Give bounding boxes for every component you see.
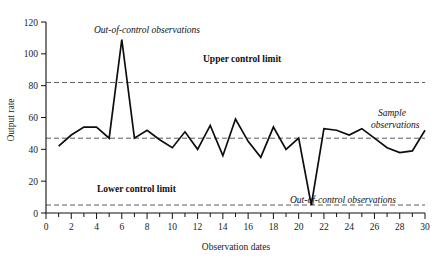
x-tick-label: 22 <box>319 222 329 232</box>
x-tick-label: 6 <box>119 222 124 232</box>
x-tick-label: 4 <box>94 222 99 232</box>
x-tick-label: 16 <box>243 222 253 232</box>
y-tick-label: 120 <box>24 18 39 28</box>
x-tick-label: 8 <box>145 222 150 232</box>
y-tick-label: 40 <box>29 145 39 155</box>
upper-control-limit-label: Upper control limit <box>203 54 282 64</box>
y-tick-label: 60 <box>29 113 39 123</box>
chart-background <box>0 0 441 260</box>
control-chart-svg: 020406080100120 024681012141618202224262… <box>0 0 441 260</box>
sample-observations-label-line1: Sample <box>378 108 406 118</box>
out-of-control-bottom-label: Out-of-control observations <box>290 195 396 205</box>
sample-observations-label-line2: observations <box>371 120 420 130</box>
x-tick-label: 14 <box>218 222 228 232</box>
y-axis-title: Output rate <box>6 98 16 141</box>
y-tick-label: 0 <box>33 209 38 219</box>
y-tick-label: 100 <box>24 49 39 59</box>
y-tick-label: 80 <box>29 81 39 91</box>
control-chart: 020406080100120 024681012141618202224262… <box>0 0 441 260</box>
out-of-control-top-label: Out-of-control observations <box>94 25 200 35</box>
x-tick-label: 26 <box>370 222 380 232</box>
x-tick-label: 18 <box>269 222 279 232</box>
y-tick-label: 20 <box>29 177 39 187</box>
lower-control-limit-label: Lower control limit <box>97 184 177 194</box>
x-tick-label: 20 <box>294 222 304 232</box>
x-tick-label: 12 <box>193 222 203 232</box>
x-tick-label: 10 <box>168 222 178 232</box>
x-tick-label: 24 <box>344 222 354 232</box>
x-tick-label: 30 <box>420 222 430 232</box>
x-tick-label: 2 <box>69 222 74 232</box>
x-axis-title: Observation dates <box>202 242 271 252</box>
x-tick-label: 28 <box>395 222 405 232</box>
x-tick-label: 0 <box>44 222 49 232</box>
